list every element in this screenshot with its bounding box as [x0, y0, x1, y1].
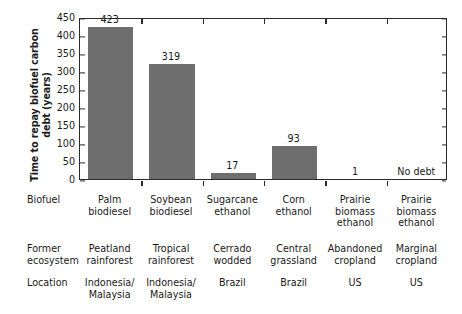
- y-axis-tick-mark-right: [442, 90, 447, 91]
- y-axis-tick-mark-right: [442, 144, 447, 145]
- plot-area: [79, 18, 447, 180]
- y-axis-tick-label: 50: [43, 157, 75, 167]
- y-axis-tick-mark-right: [442, 54, 447, 55]
- table-cell-former-ecosystem: Marginal cropland: [375, 243, 458, 266]
- x-axis-tick-mark-top: [264, 19, 265, 24]
- bar-value-label: 93: [288, 134, 300, 144]
- bar-value-label: 1: [352, 167, 358, 177]
- y-axis-tick-label: 200: [43, 103, 75, 113]
- y-axis-tick-mark: [80, 144, 85, 145]
- bar: [88, 27, 133, 179]
- plot-inner: [80, 19, 446, 179]
- y-axis-tick-label: 350: [43, 49, 75, 59]
- y-axis-tick-mark: [80, 180, 85, 181]
- y-axis-tick-label: 300: [43, 67, 75, 77]
- bar-value-label: 319: [162, 52, 180, 62]
- y-axis-tick-label: 250: [43, 85, 75, 95]
- x-axis-tick-mark-bottom: [264, 181, 265, 186]
- x-axis-tick-mark-bottom: [325, 181, 326, 186]
- bar: [211, 173, 256, 179]
- y-axis-tick-mark-right: [442, 108, 447, 109]
- x-axis-tick-mark-top: [141, 19, 142, 24]
- y-axis-tick-mark: [80, 90, 85, 91]
- bar-value-label: 423: [101, 15, 119, 25]
- y-axis-tick-mark-right: [442, 126, 447, 127]
- y-axis-tick-mark: [80, 162, 85, 163]
- y-axis-tick-mark-right: [442, 162, 447, 163]
- y-axis-tick-mark: [80, 126, 85, 127]
- x-axis-tick-mark-bottom: [141, 181, 142, 186]
- x-axis-tick-mark-top: [325, 19, 326, 24]
- y-axis-tick-mark-right: [442, 36, 447, 37]
- y-axis-tick-label: 0: [43, 175, 75, 185]
- x-axis-tick-mark-top: [387, 19, 388, 24]
- y-axis-tick-mark: [80, 108, 85, 109]
- y-axis-tick-mark: [80, 18, 85, 19]
- y-axis-tick-mark-right: [442, 180, 447, 181]
- x-axis-tick-mark-top: [203, 19, 204, 24]
- y-axis-tick-label: 150: [43, 121, 75, 131]
- x-axis-tick-mark-bottom: [387, 181, 388, 186]
- y-axis-tick-mark: [80, 54, 85, 55]
- row-label-location: Location: [27, 277, 68, 289]
- y-axis-tick-mark-right: [442, 72, 447, 73]
- table-cell-biofuel: Prairie biomass ethanol: [375, 194, 458, 229]
- bar-value-label: No debt: [397, 167, 435, 177]
- x-axis-tick-mark-bottom: [203, 181, 204, 186]
- chart-figure: Time to repay biofuel carbon debt (years…: [0, 0, 462, 314]
- table-cell-location: US: [375, 277, 458, 289]
- row-label-biofuel: Biofuel: [27, 194, 60, 206]
- bar: [272, 146, 317, 179]
- y-axis-tick-label: 400: [43, 31, 75, 41]
- y-axis-tick-mark-right: [442, 18, 447, 19]
- y-axis-tick-label: 450: [43, 13, 75, 23]
- y-axis-tick-mark: [80, 36, 85, 37]
- bar-value-label: 17: [226, 161, 238, 171]
- bar: [149, 64, 194, 179]
- y-axis-tick-mark: [80, 72, 85, 73]
- y-axis-tick-label: 100: [43, 139, 75, 149]
